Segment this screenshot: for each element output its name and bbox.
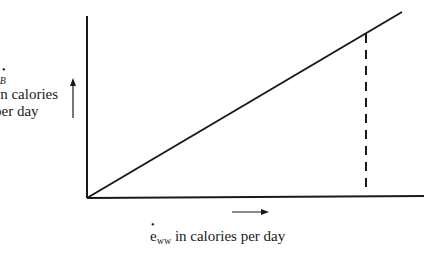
right-arrow-icon — [232, 209, 269, 215]
up-arrow-icon — [70, 78, 76, 118]
x-axis — [87, 196, 424, 198]
y-axis-label-line2: in calories — [0, 86, 58, 103]
data-line — [87, 12, 402, 198]
y-axis-label-line3: per day — [0, 103, 58, 120]
y-axis-symbol: • eB — [0, 68, 5, 86]
chart-plot-area — [0, 0, 444, 261]
y-axis-label: • eB in calories per day — [0, 68, 58, 120]
x-axis-label: • e ww in calories per day — [150, 228, 285, 245]
x-axis-label-text: in calories per day — [175, 228, 285, 244]
x-axis-symbol: • e — [150, 228, 157, 245]
